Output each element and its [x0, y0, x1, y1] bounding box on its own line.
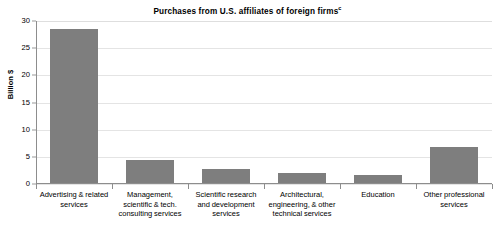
- x-axis-category-label: Advertising & related services: [36, 190, 112, 219]
- chart-title-superscript: c: [338, 5, 341, 11]
- x-axis-tick-mark: [264, 184, 265, 189]
- bar-slot: [416, 21, 492, 184]
- x-axis-category-label: Education: [340, 190, 416, 219]
- bar-series: [36, 21, 492, 184]
- bar-slot: [340, 21, 416, 184]
- x-axis-tick-mark: [492, 184, 493, 189]
- x-axis-category-label: Scientific research and development serv…: [188, 190, 264, 219]
- x-axis-tick-mark: [112, 184, 113, 189]
- bar-slot: [112, 21, 188, 184]
- y-axis-tick-label: 0: [0, 180, 36, 188]
- x-axis-tick-mark: [416, 184, 417, 189]
- x-axis-tick-mark: [36, 184, 37, 189]
- y-axis-tick-label: 25: [0, 44, 36, 52]
- y-axis-tick-label: 5: [0, 153, 36, 161]
- bar: [202, 169, 249, 184]
- y-axis-tick-label: 15: [0, 99, 36, 107]
- chart-title-text: Purchases from U.S. affiliates of foreig…: [153, 7, 338, 16]
- x-axis-tick-marks: [36, 184, 492, 189]
- bar-slot: [36, 21, 112, 184]
- y-axis-tick-label: 10: [0, 126, 36, 134]
- x-axis-category-label: Management, scientific & tech. consultin…: [112, 190, 188, 219]
- chart-title: Purchases from U.S. affiliates of foreig…: [0, 3, 495, 17]
- x-axis-tick-mark: [188, 184, 189, 189]
- bar: [126, 160, 173, 184]
- x-axis-tick-mark: [340, 184, 341, 189]
- y-axis-tick-label: 30: [0, 17, 36, 25]
- bar: [430, 147, 477, 184]
- plot-area: 302520151050: [36, 21, 492, 184]
- y-axis-title: Billion $: [6, 53, 15, 117]
- bar: [50, 29, 97, 184]
- x-axis-category-labels: Advertising & related servicesManagement…: [36, 190, 492, 219]
- x-axis-category-label: Architectural, engineering, & other tech…: [264, 190, 340, 219]
- bar-slot: [264, 21, 340, 184]
- bar-slot: [188, 21, 264, 184]
- x-axis-category-label: Other professional services: [416, 190, 492, 219]
- y-axis-tick-label: 20: [0, 71, 36, 79]
- bar-chart: Purchases from U.S. affiliates of foreig…: [0, 0, 495, 229]
- y-axis-line: [36, 21, 37, 184]
